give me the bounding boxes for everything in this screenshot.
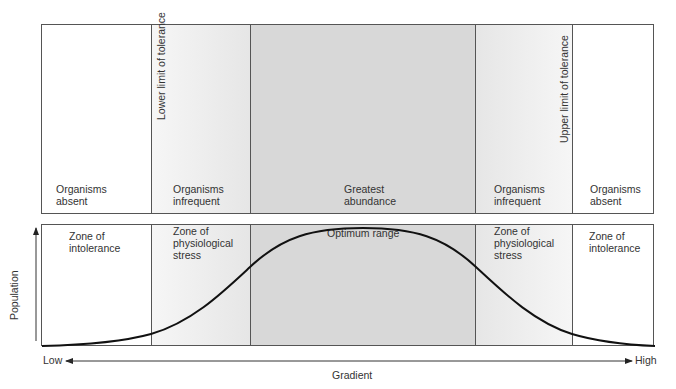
zone-label-line: Greatest xyxy=(344,183,396,195)
zone-label-line: abundance xyxy=(344,195,396,207)
y-axis-label: Population xyxy=(8,270,20,320)
zone-label: Greatest abundance xyxy=(344,183,396,207)
x-axis-label: Gradient xyxy=(332,369,372,381)
zone-infrequent-high: Upper limit of tolerance Organisms infre… xyxy=(476,25,572,213)
zone-infrequent-low: Lower limit of tolerance Organisms infre… xyxy=(151,25,250,213)
zone-greatest-abundance: Greatest abundance xyxy=(250,25,476,213)
zone-label: Organisms absent xyxy=(56,183,107,207)
zone-label-line: infrequent xyxy=(494,195,545,207)
zone-label: Organisms absent xyxy=(590,183,641,207)
upper-limit-label: Upper limit of tolerance xyxy=(558,35,570,143)
zone-absent-low: Organisms absent xyxy=(42,25,151,213)
zone-label-line: absent xyxy=(590,195,641,207)
zone-label-line: Organisms xyxy=(173,183,224,195)
tolerance-curve-panel: Zone of intolerance Zone of physiologica… xyxy=(41,224,654,346)
zone-label-line: Organisms xyxy=(494,183,545,195)
zone-label: Organisms infrequent xyxy=(494,183,545,207)
zone-label-line: infrequent xyxy=(173,195,224,207)
zone-label-line: Organisms xyxy=(56,183,107,195)
x-axis-low-label: Low xyxy=(43,354,62,366)
zone-label-line: absent xyxy=(56,195,107,207)
lower-limit-label: Lower limit of tolerance xyxy=(155,12,167,120)
zone-label: Organisms infrequent xyxy=(173,183,224,207)
zone-label-line: Organisms xyxy=(590,183,641,195)
zone-absent-high: Organisms absent xyxy=(572,25,653,213)
x-axis-high-label: High xyxy=(635,354,657,366)
distribution-panel: Organisms absent Lower limit of toleranc… xyxy=(41,24,654,214)
population-curve xyxy=(42,225,655,347)
